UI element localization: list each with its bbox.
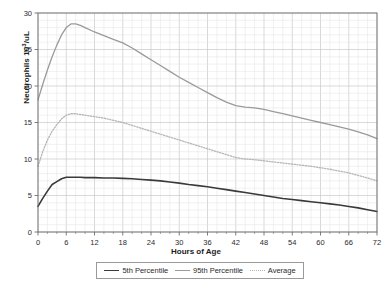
legend-label: 95th Percentile <box>193 266 243 275</box>
x-tick-label: 30 <box>175 238 183 247</box>
x-tick-label: 66 <box>345 238 353 247</box>
y-tick-label: 0 <box>28 228 32 237</box>
legend-item: Average <box>250 266 296 275</box>
y-axis-label: Neutrophils 103/uL <box>21 0 32 137</box>
x-tick-label: 24 <box>147 238 155 247</box>
y-axis-label-exponent: 3 <box>21 43 27 46</box>
x-tick-label: 18 <box>119 238 127 247</box>
x-tick-label: 0 <box>36 238 40 247</box>
x-tick-label: 36 <box>203 238 211 247</box>
x-tick-label: 48 <box>260 238 268 247</box>
neutrophil-reference-chart: 061218243036424854606672051015202530 Neu… <box>0 0 392 286</box>
legend-swatch-icon <box>104 270 119 271</box>
x-axis-label: Hours of Age <box>0 247 392 256</box>
y-axis-label-text: Neutrophils 10 <box>22 47 31 104</box>
chart-legend: 5th Percentile95th PercentileAverage <box>96 262 304 279</box>
x-tick-label: 42 <box>232 238 240 247</box>
y-axis-label-unit: /uL <box>22 31 31 43</box>
x-tick-label: 6 <box>64 238 68 247</box>
x-tick-label: 54 <box>288 238 296 247</box>
x-tick-label: 72 <box>373 238 381 247</box>
x-tick-label: 12 <box>90 238 98 247</box>
chart-plot-area: 061218243036424854606672051015202530 <box>0 0 392 286</box>
legend-label: 5th Percentile <box>122 266 168 275</box>
legend-swatch-icon <box>250 270 265 271</box>
legend-item: 95th Percentile <box>175 266 243 275</box>
legend-label: Average <box>268 266 296 275</box>
legend-swatch-icon <box>175 270 190 271</box>
y-tick-label: 10 <box>24 155 32 164</box>
legend-item: 5th Percentile <box>104 266 168 275</box>
y-tick-label: 5 <box>28 191 32 200</box>
x-tick-label: 60 <box>316 238 324 247</box>
